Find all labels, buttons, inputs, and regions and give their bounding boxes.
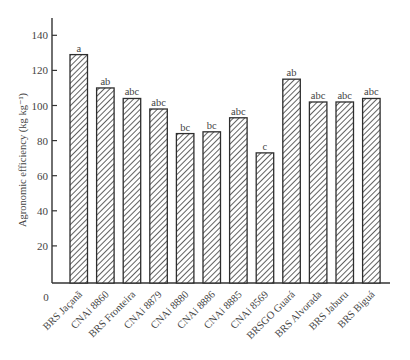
- significance-label: bc: [207, 120, 217, 131]
- bar: [363, 98, 381, 283]
- y-tick-label: 80: [37, 135, 49, 147]
- y-tick-label: 140: [32, 29, 49, 41]
- significance-label: abc: [311, 90, 326, 101]
- bar: [203, 132, 221, 283]
- significance-label: c: [263, 141, 268, 152]
- significance-label: abc: [337, 90, 352, 101]
- y-axis-title: Agronomic efficiency (kg kg⁻¹): [17, 92, 29, 227]
- bar: [283, 79, 301, 283]
- y-tick-label: 40: [37, 205, 49, 217]
- bar: [123, 98, 141, 283]
- significance-label: abc: [125, 86, 140, 97]
- y-tick-label: 120: [32, 64, 49, 76]
- significance-label: a: [76, 43, 81, 54]
- significance-label: ab: [100, 76, 110, 87]
- y-tick-label: 60: [37, 170, 49, 182]
- significance-label: abc: [364, 86, 379, 97]
- bar: [336, 102, 354, 283]
- bar: [150, 109, 168, 283]
- significance-label: abc: [231, 106, 246, 117]
- significance-label: abc: [151, 97, 166, 108]
- significance-label: ab: [287, 67, 297, 78]
- bar: [70, 55, 88, 283]
- bar: [256, 153, 274, 283]
- bar-chart: 204060801001201400Agronomic efficiency (…: [0, 0, 410, 360]
- bar: [309, 102, 327, 283]
- bar: [230, 118, 248, 283]
- significance-label: bc: [180, 122, 190, 133]
- bar: [176, 134, 194, 283]
- y-tick-label: 100: [32, 100, 49, 112]
- y-tick-label: 20: [37, 240, 49, 252]
- bar: [97, 88, 115, 283]
- origin-label: 0: [43, 291, 49, 303]
- bars: [70, 55, 380, 283]
